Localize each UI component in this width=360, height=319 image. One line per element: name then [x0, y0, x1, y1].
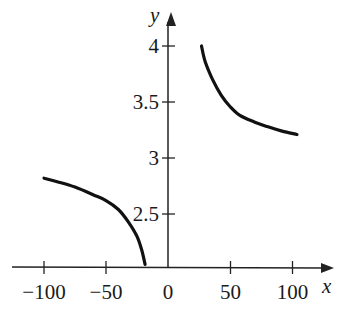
x-tick-label: 50 — [220, 280, 241, 304]
y-tick-label: 4 — [149, 34, 160, 58]
y-axis-label: y — [148, 3, 160, 27]
x-tick-label: 100 — [277, 280, 309, 304]
y-tick-label: 3 — [149, 146, 160, 170]
plot-curves — [44, 46, 297, 264]
x-tick-label: −50 — [90, 280, 123, 304]
x-axis-label: x — [321, 274, 332, 298]
y-tick-label: 2.5 — [133, 202, 159, 226]
x-axis-line — [12, 267, 326, 268]
y-axis-arrow-icon — [166, 12, 176, 26]
x-axis: −100−50050100 x — [12, 261, 334, 304]
chart: −100−50050100 x 2.533.54 y — [0, 0, 360, 319]
x-tick-label: 0 — [163, 280, 174, 304]
right-branch-curve — [202, 46, 298, 135]
y-axis: 2.533.54 y — [133, 3, 176, 268]
x-axis-arrow-icon — [321, 263, 334, 273]
left-branch-curve — [44, 178, 145, 264]
x-tick-label: −100 — [22, 280, 65, 304]
y-tick-label: 3.5 — [133, 90, 159, 114]
